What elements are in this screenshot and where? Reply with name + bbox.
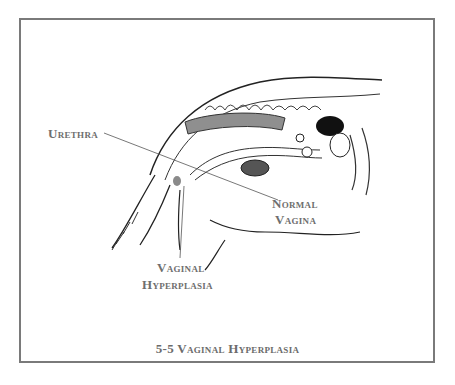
label-vaginal-hyperplasia-line2: Hyperplasia — [142, 277, 213, 292]
label-normal-vagina-line2: Vagina — [275, 212, 316, 227]
figure-caption: 5-5 Vaginal Hyperplasia — [0, 341, 455, 357]
label-vaginal-hyperplasia-line1: Vaginal — [157, 260, 205, 275]
label-normal-vagina-line1: Normal — [272, 196, 318, 211]
anatomy-illustration — [0, 0, 455, 385]
label-urethra: Urethra — [48, 126, 98, 141]
